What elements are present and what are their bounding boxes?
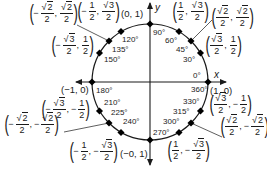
angle-label-240: 240° (123, 117, 140, 126)
fraction: √22 (16, 114, 29, 135)
coord-label-240: ( − 12 , − √32 ) (70, 140, 118, 162)
fraction: 12 (78, 99, 85, 120)
coord-label-120: ( − 12 , √32 ) (78, 0, 119, 22)
coord-label-45: ( √22 , √22 ) (212, 6, 253, 28)
fraction: √32 (102, 1, 115, 22)
coord-label-315: ( √22 , − √22 ) (221, 115, 267, 137)
point-90 (146, 20, 153, 27)
angle-label-45: 45° (176, 45, 188, 54)
fraction: √32 (191, 1, 204, 22)
angle-label-30: 30° (183, 55, 195, 64)
fraction: 12 (230, 35, 237, 56)
fraction: 12 (82, 35, 89, 56)
point-270 (146, 136, 153, 143)
x-axis-label: x (213, 69, 220, 80)
coord-label-150: ( − √32 , 12 ) (52, 34, 93, 56)
fraction: √32 (214, 94, 227, 115)
leader-line-315 (191, 123, 222, 137)
coord-label-60: ( 12 , √32 ) (173, 0, 208, 22)
fraction: √32 (192, 140, 205, 161)
fraction: √32 (210, 35, 223, 56)
point-180 (88, 78, 95, 85)
angle-label-150: 150° (104, 55, 121, 64)
fraction: √22 (41, 3, 54, 24)
fraction: √22 (60, 3, 73, 24)
angle-label-210: 210° (104, 98, 121, 107)
angle-label-120: 120° (122, 35, 139, 44)
coord-label-30: ( √32 , 12 ) (206, 34, 241, 56)
fraction: 12 (240, 94, 247, 115)
coord-label-180: (−1, 0) (61, 84, 89, 95)
angle-label-315: 315° (173, 107, 190, 116)
angle-label-60: 60° (165, 36, 177, 45)
angle-label-360: 360° (191, 85, 208, 94)
y-axis-label: y (154, 2, 161, 13)
angle-label-300: 300° (163, 117, 180, 126)
fraction: √22 (236, 7, 249, 28)
fraction: √32 (63, 35, 76, 56)
angle-label-330: 330° (183, 97, 200, 106)
angle-label-90: 90° (153, 28, 165, 37)
angle-label-0: 0° (193, 71, 201, 80)
unit-circle-diagram: x y 90° 60° 4 (0, 0, 267, 170)
angle-label-225: 225° (111, 108, 128, 117)
coord-label-90: (0, 1) (121, 8, 143, 19)
fraction: √22 (41, 114, 54, 135)
fraction: √22 (216, 7, 229, 28)
fraction: √22 (251, 116, 264, 137)
fraction: 12 (177, 1, 184, 22)
coord-label-225: ( − √22 , − √22 ) (5, 113, 59, 135)
coord-label-135: ( − √22 , √22 ) (30, 2, 77, 24)
angle-label-135: 135° (112, 45, 129, 54)
angle-label-180: 180° (96, 86, 113, 95)
fraction: √22 (225, 116, 238, 137)
coord-label-270: (−0, 1) (120, 148, 148, 159)
fraction: √32 (100, 141, 113, 162)
fraction: 12 (81, 141, 88, 162)
fraction: 12 (89, 1, 96, 22)
angle-label-270: 270° (153, 128, 170, 137)
coord-label-300: ( 12 , − √32 ) (168, 139, 209, 161)
leader-line-225 (64, 123, 109, 132)
fraction: 12 (172, 140, 179, 161)
coord-label-330: ( √32 , − 12 ) (210, 93, 251, 115)
